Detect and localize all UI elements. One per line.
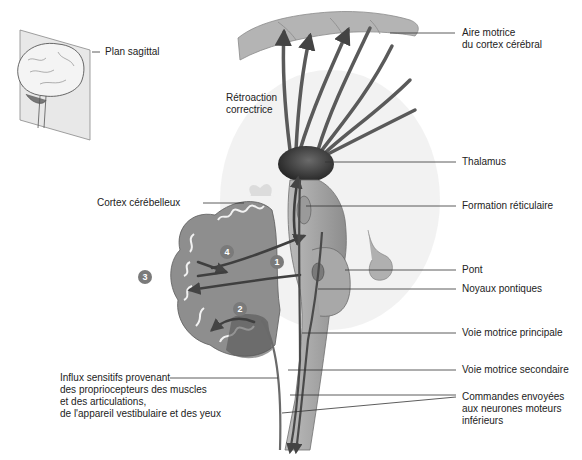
label-voie-secondaire: Voie motrice secondaire <box>462 364 569 376</box>
thalamus-shape <box>278 146 334 182</box>
label-noyaux-pontiques: Noyaux pontiques <box>462 283 542 295</box>
motor-cortex <box>238 11 418 60</box>
label-commandes-line1: Commandes envoyées <box>462 391 564 403</box>
label-influx-line3: et des articulations, <box>60 396 221 408</box>
label-formation-reticulaire: Formation réticulaire <box>462 200 553 212</box>
label-aire-motrice-line2: du cortex cérébral <box>462 39 542 51</box>
marker-3: 3 <box>138 270 152 284</box>
label-influx-line2: des propriocepteurs des muscles <box>60 384 221 396</box>
label-retroaction-line1: Rétroaction <box>226 92 277 104</box>
label-commandes: Commandes envoyées aux neurones moteurs … <box>462 391 564 427</box>
marker-4: 4 <box>220 245 234 259</box>
label-influx-line1: Influx sensitifs provenant <box>60 372 221 384</box>
label-retroaction: Rétroaction correctrice <box>226 92 277 116</box>
marker-1: 1 <box>270 255 284 269</box>
label-cortex-cerebelleux: Cortex cérébelleux <box>97 197 180 209</box>
sagittal-plane-inset <box>18 30 100 140</box>
label-plan-sagittal: Plan sagittal <box>105 46 159 58</box>
label-retroaction-line2: correctrice <box>226 104 277 116</box>
label-thalamus: Thalamus <box>462 156 506 168</box>
label-voie-principale: Voie motrice principale <box>462 327 563 339</box>
label-aire-motrice-line1: Aire motrice <box>462 27 542 39</box>
label-influx-line4: de l'appareil vestibulaire et des yeux <box>60 408 221 420</box>
label-influx-sensitifs: Influx sensitifs provenant des proprioce… <box>60 372 221 420</box>
label-pont: Pont <box>462 264 483 276</box>
label-aire-motrice: Aire motrice du cortex cérébral <box>462 27 542 51</box>
label-commandes-line3: inférieurs <box>462 415 564 427</box>
label-commandes-line2: aux neurones moteurs <box>462 403 564 415</box>
marker-2: 2 <box>233 302 247 316</box>
